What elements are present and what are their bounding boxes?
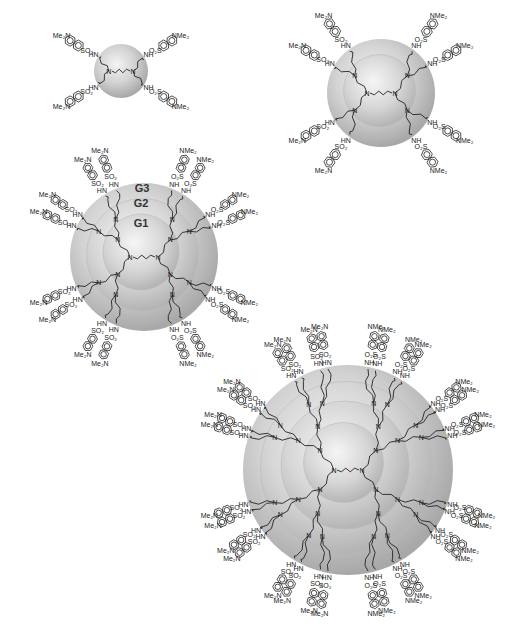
nh-label: NH: [181, 187, 191, 194]
aromatic-circle: [75, 42, 81, 48]
aromatic-circle: [178, 344, 184, 350]
aromatic-circle: [332, 152, 338, 158]
dimethylamino-label: NMe₂: [172, 103, 190, 110]
dansyl-group: HNSO₂Me₂N: [315, 137, 351, 174]
benzene-ring: [99, 155, 109, 164]
dimethylamino-label: Me₂N: [39, 191, 57, 198]
label-g1: G1: [134, 217, 149, 229]
aromatic-circle: [53, 293, 59, 299]
dansyl-group: NHO₂SNMe₂: [143, 32, 189, 58]
nh-label: NH: [392, 565, 402, 572]
dimethylamino-label: Me₂N: [315, 167, 333, 174]
aromatic-circle: [452, 397, 458, 403]
aromatic-circle: [104, 165, 110, 171]
aromatic-circle: [197, 343, 203, 349]
sulfonyl-label: O₂S: [171, 334, 184, 341]
aromatic-circle: [326, 159, 332, 165]
sulfonyl-label: SO₂: [289, 361, 302, 368]
sulfonyl-label: SO₂: [310, 580, 323, 587]
aromatic-circle: [230, 293, 236, 299]
dansyl-group: NHO₂SNMe₂: [411, 137, 447, 174]
dimethylamino-label: NMe₂: [430, 12, 448, 19]
aromatic-circle: [463, 516, 469, 522]
benzene-ring: [179, 155, 189, 164]
aromatic-circle: [452, 537, 458, 543]
aromatic-circle: [275, 584, 281, 590]
sulfonyl-label: O₂S: [415, 36, 428, 43]
dimethylamino-label: NMe₂: [241, 208, 259, 215]
sulfonyl-label: O₂S: [415, 143, 428, 150]
benzene-ring: [176, 342, 186, 351]
aromatic-circle: [178, 165, 184, 171]
dimethylamino-label: NMe₂: [172, 32, 190, 39]
aromatic-circle: [279, 358, 285, 364]
aromatic-circle: [411, 577, 417, 583]
dansyl-group: NHO₂SNMe₂: [427, 42, 474, 67]
dimethylamino-label: NMe₂: [461, 386, 479, 393]
dimethylamino-label: NMe₂: [414, 341, 432, 348]
aromatic-circle: [370, 342, 376, 348]
dimethylamino-label: Me₂N: [264, 592, 282, 599]
aromatic-circle: [275, 350, 281, 356]
aromatic-circle: [320, 592, 326, 598]
aromatic-circle: [319, 601, 325, 607]
sulfonyl-label: SO₂: [335, 143, 348, 150]
dimethylamino-label: Me₂N: [223, 555, 241, 562]
benzene-ring: [309, 342, 319, 352]
dimethylamino-label: Me₂N: [30, 299, 48, 306]
sulfonyl-label: O₂S: [402, 365, 415, 372]
aromatic-circle: [424, 152, 430, 158]
benzene-ring: [102, 163, 112, 172]
aromatic-circle: [244, 390, 250, 396]
dimethylamino-label: Me₂N: [53, 32, 71, 39]
aromatic-circle: [445, 128, 451, 134]
dimethylamino-label: NMe₂: [378, 326, 396, 333]
dansyl-group: HNSO₂Me₂N: [315, 12, 351, 49]
benzene-ring: [317, 331, 327, 341]
benzene-ring: [317, 599, 327, 609]
dimethylamino-label: NMe₂: [430, 167, 448, 174]
dimethylamino-label: Me₂N: [30, 208, 48, 215]
nh-label: HN: [293, 368, 303, 375]
aromatic-circle: [75, 93, 81, 99]
sulfonyl-label: SO₂: [281, 568, 294, 575]
benzene-ring: [427, 19, 438, 29]
aromatic-circle: [244, 545, 250, 551]
branch-nitrogen: N: [413, 511, 418, 518]
dimethylamino-label: Me₂N: [39, 316, 57, 323]
dansyl-group: NHO₂SNMe₂: [411, 12, 447, 49]
aromatic-circle: [429, 159, 435, 165]
aromatic-circle: [403, 353, 409, 359]
aromatic-circle: [407, 345, 413, 351]
aromatic-circle: [288, 353, 294, 359]
aromatic-circle: [288, 581, 294, 587]
benzene-ring: [324, 157, 335, 167]
dimethylamino-label: NMe₂: [456, 42, 474, 49]
aromatic-circle: [463, 419, 469, 425]
aromatic-circle: [447, 545, 453, 551]
sulfonyl-label: SO₂: [319, 351, 332, 358]
sulfonyl-label: SO₂: [316, 56, 329, 63]
aromatic-circle: [182, 157, 188, 163]
dimethylamino-label: Me₂N: [217, 386, 235, 393]
nh-label: HN: [322, 359, 332, 366]
benzene-ring: [225, 514, 234, 524]
benzene-ring: [307, 597, 317, 607]
aromatic-circle: [326, 21, 332, 27]
nh-label: NH: [169, 326, 179, 333]
aromatic-circle: [85, 165, 91, 171]
benzene-ring: [370, 331, 380, 341]
aromatic-circle: [238, 397, 244, 403]
nh-label: HN: [97, 187, 107, 194]
aromatic-circle: [222, 307, 228, 313]
dimethylamino-label: Me₂N: [300, 607, 318, 614]
label-g3: G3: [135, 182, 150, 194]
aromatic-circle: [193, 172, 199, 178]
benzene-ring: [102, 342, 112, 351]
aromatic-circle: [311, 128, 317, 134]
aromatic-circle: [309, 336, 315, 342]
dendrimer-figure: NNHNSO₂Me₂NHNSO₂Me₂NNHO₂SNMe₂NHO₂SNMe₂ N…: [0, 0, 528, 639]
aromatic-circle: [227, 516, 233, 522]
benzene-ring: [377, 342, 387, 352]
dendrimer-g1: NNHNSO₂Me₂NHNSO₂Me₂NNHO₂SNMe₂NHO₂SNMe₂: [53, 32, 190, 110]
